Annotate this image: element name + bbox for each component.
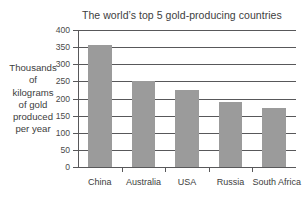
bar[interactable] [132,81,156,167]
plot-area [78,30,296,167]
y-axis-tick-label: 50 [48,145,70,155]
x-axis-tick [122,167,123,172]
chart-screenshot: The world’s top 5 gold-producing countri… [0,0,302,201]
x-axis-tick-label: Russia [209,177,253,187]
y-axis-tick-label: 0 [48,162,70,172]
y-axis-tick-label: 250 [48,76,70,86]
x-axis-tick [165,167,166,172]
x-axis-tick [252,167,253,172]
bar[interactable] [262,108,286,167]
y-axis-tick-label: 100 [48,128,70,138]
x-axis-tick [209,167,210,172]
x-axis-tick-label: Australia [122,177,166,187]
bar[interactable] [175,90,199,167]
y-axis-tick-label: 300 [48,59,70,69]
x-axis-tick-label: China [78,177,122,187]
chart-title: The world’s top 5 gold-producing countri… [82,9,298,21]
y-axis-tick [73,167,78,168]
x-axis-tick-label: USA [165,177,209,187]
y-axis-tick-label: 400 [48,25,70,35]
y-axis-tick-label: 150 [48,111,70,121]
y-axis-tick-label: 350 [48,42,70,52]
bar[interactable] [219,102,243,167]
bar-series [78,30,296,167]
y-axis-tick-label: 200 [48,94,70,104]
x-axis-tick-label: South Africa [252,177,296,187]
bar[interactable] [88,45,112,167]
gridline [78,167,296,168]
